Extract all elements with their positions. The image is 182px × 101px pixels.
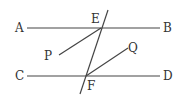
label-p: P: [44, 49, 52, 63]
label-e: E: [91, 12, 100, 26]
label-f: F: [87, 79, 95, 93]
ray-fq: [86, 48, 128, 76]
label-a: A: [14, 21, 24, 35]
label-c: C: [15, 69, 24, 83]
label-q: Q: [128, 41, 138, 55]
label-b: B: [163, 21, 172, 35]
geometry-diagram: A B C D E F P Q: [0, 0, 182, 101]
label-d: D: [163, 69, 173, 83]
